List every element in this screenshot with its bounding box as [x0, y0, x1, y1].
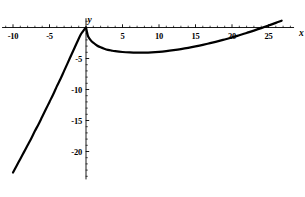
curve-layer	[13, 21, 282, 173]
plot-canvas	[0, 0, 305, 197]
x-tick-label: 25	[261, 31, 277, 41]
axes-layer	[2, 18, 294, 179]
y-tick-label: -5	[64, 54, 82, 64]
x-tick-label: 20	[224, 31, 240, 41]
x-tick-label: 15	[188, 31, 204, 41]
y-tick-label: -15	[64, 116, 82, 126]
y-tick-label: -20	[64, 147, 82, 157]
x-tick-label: -5	[42, 31, 58, 41]
y-axis-label: y	[88, 15, 92, 25]
function-plot: -10-5510152025 -5-10-15-20 x y	[0, 0, 305, 197]
x-tick-label: 5	[115, 31, 131, 41]
y-tick-label: -10	[64, 85, 82, 95]
x-tick-label: 10	[151, 31, 167, 41]
x-axis-label: x	[299, 28, 304, 38]
x-tick-label: -10	[5, 31, 21, 41]
